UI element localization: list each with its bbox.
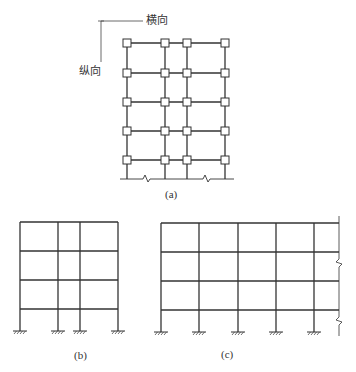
column-node xyxy=(161,98,169,106)
column-node xyxy=(221,127,229,135)
column-node xyxy=(161,69,169,77)
column-node xyxy=(221,156,229,164)
column-node xyxy=(183,98,191,106)
column-node xyxy=(183,39,191,47)
caption-c: (c) xyxy=(221,349,233,360)
column-node xyxy=(161,127,169,135)
column-node xyxy=(221,98,229,106)
vertical-direction-label: 纵向 xyxy=(79,66,101,77)
column-node xyxy=(123,98,131,106)
column-node xyxy=(183,69,191,77)
column-node xyxy=(221,39,229,47)
column-node xyxy=(123,156,131,164)
column-node xyxy=(183,156,191,164)
direction-axis xyxy=(98,21,143,62)
column-node xyxy=(183,127,191,135)
horizontal-direction-label: 横向 xyxy=(146,15,168,26)
longitudinal-frame xyxy=(154,216,342,336)
column-node xyxy=(161,39,169,47)
structural-frame-diagram xyxy=(0,0,356,372)
plan-view-grid xyxy=(120,39,234,182)
caption-a: (a) xyxy=(165,189,177,200)
column-node xyxy=(123,127,131,135)
column-node xyxy=(161,156,169,164)
column-node xyxy=(123,69,131,77)
caption-b: (b) xyxy=(74,350,87,361)
transverse-frame xyxy=(13,222,125,334)
column-node xyxy=(123,39,131,47)
column-node xyxy=(221,69,229,77)
